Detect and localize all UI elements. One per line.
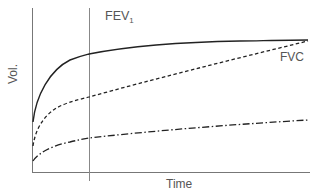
dashed-curve [33, 41, 308, 146]
spirometry-chart [0, 0, 335, 196]
solid-curve [33, 40, 308, 122]
fev1-label: FEV1 [105, 9, 134, 25]
fvc-label: FVC [280, 50, 304, 64]
y-axis-label: Vol. [6, 64, 20, 84]
dash-dot-curve [33, 120, 308, 161]
x-axis-label: Time [166, 177, 192, 191]
